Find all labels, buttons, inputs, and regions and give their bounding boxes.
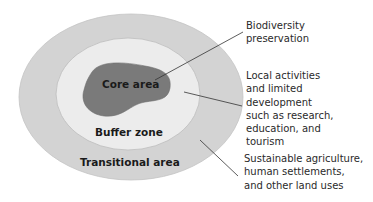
transitional-area-label: Transitional area <box>80 156 180 168</box>
core-area-label: Core area <box>102 78 159 90</box>
transitional-area-description: Sustainable agriculture, human settlemen… <box>244 152 363 192</box>
core-area-description: Biodiversity preservation <box>246 19 309 46</box>
buffer-zone-description: Local activities and limited development… <box>246 69 334 149</box>
buffer-zone-label: Buffer zone <box>95 126 163 138</box>
